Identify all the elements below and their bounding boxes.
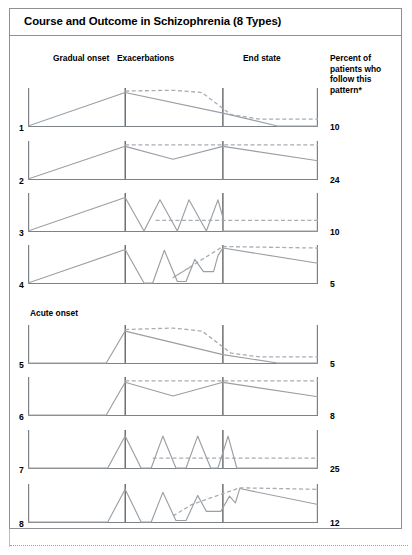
row-plot — [28, 375, 318, 421]
row-number-label: 2 — [19, 177, 24, 186]
row-percent-value: 25 — [330, 465, 340, 474]
chart-row: 725 — [0, 428, 393, 474]
footer-divider — [10, 545, 408, 546]
column-header-gradual-onset: Gradual onset — [53, 53, 109, 64]
chart-row: 45 — [0, 243, 393, 289]
row-number-label: 6 — [19, 413, 24, 422]
chart-row: 68 — [0, 375, 393, 421]
row-percent-value: 5 — [330, 360, 335, 369]
row-percent-value: 10 — [330, 228, 340, 237]
row-percent-value: 10 — [330, 123, 340, 132]
row-percent-value: 24 — [330, 176, 340, 185]
row-number-label: 3 — [19, 229, 24, 238]
chart-row: 310 — [0, 191, 393, 237]
row-percent-value: 8 — [330, 412, 335, 421]
row-percent-value: 12 — [330, 519, 340, 528]
row-number-label: 8 — [19, 520, 24, 529]
page-title: Course and Outcome in Schizophrenia (8 T… — [24, 15, 281, 27]
row-plot — [28, 191, 318, 237]
row-plot — [28, 243, 318, 289]
row-percent-value: 5 — [330, 280, 335, 289]
chart-row: 55 — [0, 323, 393, 369]
row-number-label: 7 — [19, 466, 24, 475]
row-plot — [28, 323, 318, 369]
figure-title-bar: Course and Outcome in Schizophrenia (8 T… — [10, 9, 401, 36]
row-number-label: 1 — [19, 124, 24, 133]
column-header-exacerbations: Exacerbations — [117, 53, 174, 64]
row-plot — [28, 482, 318, 528]
row-plot — [28, 139, 318, 185]
row-plot — [28, 86, 318, 132]
row-plot — [28, 428, 318, 474]
group-label-acute-onset: Acute onset — [30, 308, 78, 318]
row-number-label: 4 — [19, 281, 24, 290]
chart-row: 110 — [0, 86, 393, 132]
chart-row: 224 — [0, 139, 393, 185]
chart-row: 812 — [0, 482, 393, 528]
column-header-end-state: End state — [243, 53, 281, 64]
row-number-label: 5 — [19, 361, 24, 370]
